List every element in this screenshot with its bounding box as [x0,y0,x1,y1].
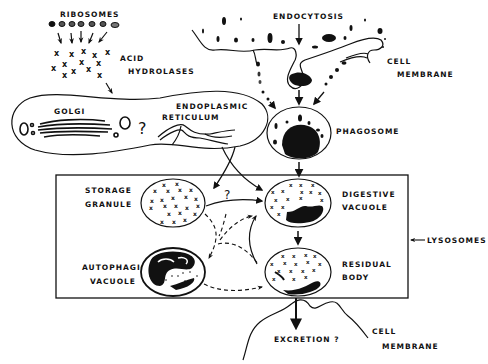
svg-text:x: x [193,210,197,217]
svg-text:x: x [105,48,111,57]
golgi-question-mark: ? [138,119,147,138]
svg-text:x: x [71,67,77,76]
cell-membrane-bottom-label-line2: MEMBRANE [382,342,439,351]
er-tubules-icon [158,125,235,145]
er-label-line2: RETICULUM [162,113,219,122]
svg-text:x: x [96,59,102,68]
lysosomes-label: LYSOSOMES [427,236,487,245]
svg-text:x: x [283,260,287,266]
svg-text:x: x [166,187,170,194]
svg-text:x: x [163,202,167,209]
svg-text:x: x [178,209,182,216]
svg-text:x: x [304,252,308,258]
cell-membrane-top-label-line1: CELL [387,57,411,66]
svg-text:x: x [183,216,187,223]
autophagic-vacuole [141,248,205,296]
digestive-vacuole: xxx xxxxx xxxx xx x [265,179,331,227]
ribosome-dots [49,22,119,28]
hydrolases-to-golgi-arrow [106,83,112,93]
svg-text:x: x [277,268,281,274]
svg-text:x: x [281,253,285,259]
lysosome-diagram: RIBOSOMES xxxxx xxxx xxxx ACID HYDROLASE… [0,0,488,364]
cell-membrane-bottom-label-line1: CELL [372,327,396,336]
svg-text:x: x [318,190,322,196]
svg-text:x: x [313,253,317,259]
svg-text:x: x [62,71,68,80]
svg-text:x: x [306,259,310,265]
golgi-stack-icon [20,117,130,137]
svg-text:x: x [271,189,275,195]
acid-hydrolases-group: xxxxx xxxx xxxx [51,47,111,80]
svg-text:x: x [299,195,303,201]
svg-text:x: x [272,276,276,282]
svg-text:x: x [86,65,92,74]
svg-text:x: x [153,187,157,194]
acid-label: ACID [120,54,144,63]
svg-text:x: x [318,261,322,267]
cell-membrane-top-label-line2: MEMBRANE [397,70,454,79]
svg-text:x: x [286,196,290,202]
svg-text:x: x [194,195,198,202]
svg-text:x: x [185,204,189,211]
residual-to-digestive-arrow [249,216,257,264]
ribosome-arrows [58,31,107,43]
svg-text:x: x [274,197,278,203]
svg-text:x: x [304,274,308,280]
svg-text:x: x [189,186,193,193]
svg-text:x: x [281,188,285,194]
svg-text:x: x [160,218,164,225]
residual-body: xxxx xxxxx xxxx xxx [265,248,331,296]
pinocytosis-vesicle-trail-left [256,62,270,101]
svg-text:x: x [150,197,154,204]
svg-text:x: x [149,204,153,211]
svg-text:x: x [309,189,313,195]
autophagic-to-residual-arrow [204,284,262,290]
svg-text:x: x [97,71,103,80]
svg-text:x: x [196,202,200,209]
autophagic-label-line1: AUTOPHAGIC [82,263,147,272]
svg-text:x: x [184,193,188,200]
svg-text:x: x [320,197,324,203]
svg-text:x: x [172,218,176,225]
svg-text:x: x [277,211,281,217]
svg-text:x: x [312,267,316,273]
svg-text:x: x [174,202,178,209]
svg-text:x: x [79,58,85,67]
svg-text:x: x [299,182,303,188]
digestive-label-line2: VACUOLE [342,203,388,212]
storage-to-digestive-arrow [206,200,262,206]
svg-text:x: x [294,261,298,267]
er-label-line1: ENDOPLASMIC [176,102,248,111]
svg-text:x: x [167,210,171,217]
svg-text:x: x [292,253,296,259]
phagosome-label: PHAGOSOME [336,127,399,136]
pinocytosis-vesicle-trail-right [325,61,347,85]
svg-text:x: x [289,268,293,274]
golgi-to-digestive-arrow [222,147,262,190]
residual-label-line2: BODY [342,273,369,282]
storage-label-line1: STORAGE [85,186,132,195]
svg-text:x: x [270,261,274,267]
endocytosis-label: ENDOCYTOSIS [273,12,344,21]
svg-text:x: x [178,186,182,193]
storage-granule: xx xxxx xxxxx xxxxx xxx xxx [141,179,205,227]
golgi-label: GOLGI [54,107,85,116]
excretion-label: EXCRETION ? [274,335,340,344]
svg-text:x: x [62,60,68,69]
phagosome [267,107,331,159]
storage-to-autophagic-arrow [205,214,216,258]
svg-text:x: x [311,182,315,188]
membrane-invagination-left [253,50,257,64]
engulfed-particle [289,72,312,86]
svg-text:x: x [289,182,293,188]
hydrolases-label: HYDROLASES [128,67,195,76]
svg-text:x: x [54,49,60,58]
autophagic-to-digestive-arrow [220,216,252,240]
cell-membrane-top [192,30,383,88]
svg-text:x: x [281,204,285,210]
svg-text:x: x [171,194,175,201]
svg-text:x: x [270,204,274,210]
autophagic-label-line2: VACUOLE [90,277,136,286]
ribosomes-group: RIBOSOMES [49,10,119,43]
svg-text:x: x [69,50,75,59]
